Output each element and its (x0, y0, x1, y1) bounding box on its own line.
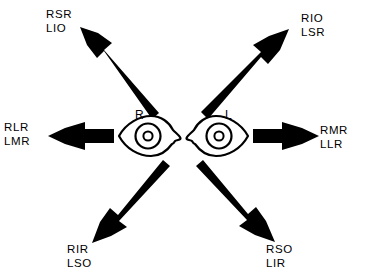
gaze-label-right: RMR LLR (320, 124, 348, 151)
arrow-left (48, 122, 114, 150)
gaze-label-lower-left-line2: LSO (67, 257, 92, 271)
gaze-label-lower-right: RSO LIR (266, 243, 293, 270)
arrow-right (253, 122, 319, 150)
right-eye-pupil (143, 131, 152, 140)
left-eye-letter: L (225, 108, 232, 122)
gaze-label-upper-left-line1: RSR (46, 8, 72, 22)
gaze-label-lower-right-line1: RSO (266, 243, 293, 257)
gaze-label-left-line1: RLR (4, 121, 30, 135)
arrow-upper-left (80, 27, 159, 119)
gaze-label-upper-right-line2: LSR (301, 26, 325, 40)
arrow-lower-right (196, 160, 275, 242)
left-eye (186, 116, 248, 156)
gaze-label-right-line1: RMR (320, 124, 348, 138)
gaze-label-right-line2: LLR (320, 138, 348, 152)
diagram-canvas (0, 0, 365, 279)
gaze-label-left: RLR LMR (4, 121, 30, 148)
gaze-label-left-line2: LMR (4, 135, 30, 149)
gaze-label-upper-right-line1: RIO (301, 12, 325, 26)
gaze-label-upper-left: RSR LIO (46, 8, 72, 35)
gaze-label-lower-right-line2: LIR (266, 257, 293, 271)
gaze-label-lower-left: RIR LSO (67, 243, 92, 270)
right-eye (119, 116, 181, 156)
right-eye-letter: R (135, 108, 144, 122)
gaze-label-upper-right: RIO LSR (301, 12, 325, 39)
gaze-label-lower-left-line1: RIR (67, 243, 92, 257)
gaze-diagram: RSR LIO RIO LSR RLR LMR RMR LLR RIR LSO … (0, 0, 365, 279)
left-eye-pupil (214, 131, 223, 140)
gaze-label-upper-left-line2: LIO (46, 22, 72, 36)
arrow-upper-right (201, 29, 289, 119)
arrow-lower-left (92, 160, 170, 243)
